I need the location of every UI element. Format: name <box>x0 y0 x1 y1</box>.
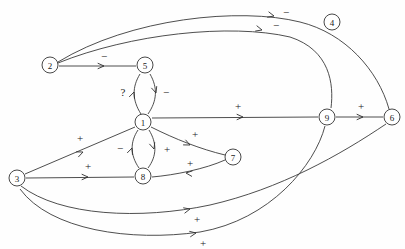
node-1[interactable]: 1 <box>135 114 151 130</box>
edge-1-to-7 <box>151 127 225 155</box>
edge-3-to-8 <box>26 177 134 178</box>
node-2[interactable]: 2 <box>42 57 58 73</box>
edge-sign-label-2-5: − <box>101 50 107 62</box>
arrowhead-1-to-9 <box>237 114 243 119</box>
node-label-7: 7 <box>231 153 236 163</box>
node-label-1: 1 <box>141 118 146 128</box>
edge-1-to-5 <box>134 74 141 114</box>
edge-sign-label-2-9: − <box>273 19 279 31</box>
node-9[interactable]: 9 <box>319 109 335 125</box>
edge-sign-label-3-1: + <box>77 132 83 144</box>
arrowhead-3-to-9 <box>190 231 196 236</box>
edge-5-to-1 <box>148 74 155 114</box>
edge-sign-label-8-1: − <box>117 142 123 154</box>
edge-sign-label-1-9: + <box>235 100 241 112</box>
signed-digraph-svg: −−−?−−+++++++++ 251879634 <box>0 0 405 249</box>
node-label-3: 3 <box>15 174 20 184</box>
arrowhead-5-to-1 <box>152 87 157 93</box>
edge-sign-label-5-1: − <box>163 86 169 98</box>
edge-sign-labels-layer: −−−?−−+++++++++ <box>77 6 364 249</box>
node-5[interactable]: 5 <box>137 57 153 73</box>
node-label-6: 6 <box>390 113 395 123</box>
edge-2-to-6 <box>58 16 389 109</box>
edge-sign-label-1-5: ? <box>121 86 126 98</box>
node-label-4: 4 <box>330 18 335 28</box>
edge-sign-label-3-6: + <box>194 213 200 225</box>
edge-1-to-9 <box>152 117 318 118</box>
edges-layer <box>20 16 389 236</box>
arrowhead-1-to-5 <box>129 92 134 98</box>
arrowhead-3-to-1 <box>77 152 84 157</box>
edge-sign-label-3-8: + <box>85 160 91 172</box>
edge-3-to-6 <box>21 124 386 213</box>
node-6[interactable]: 6 <box>384 109 400 125</box>
arrowhead-3-to-8 <box>82 174 88 179</box>
edge-8-to-1 <box>132 130 139 168</box>
edge-sign-label-9-6: + <box>358 100 364 112</box>
node-label-2: 2 <box>48 61 53 71</box>
graph-diagram-canvas: −−−?−−+++++++++ 251879634 <box>0 0 405 249</box>
arrowhead-8-to-1 <box>127 148 132 154</box>
node-4[interactable]: 4 <box>324 14 340 30</box>
edge-sign-label-2-6: − <box>283 6 289 18</box>
node-label-5: 5 <box>143 61 148 71</box>
arrowhead-2-to-6 <box>268 12 274 17</box>
node-8[interactable]: 8 <box>135 168 151 184</box>
edge-sign-label-1-8: + <box>164 143 170 155</box>
arrowhead-3-to-6 <box>184 208 190 213</box>
nodes-layer: 251879634 <box>9 14 400 186</box>
node-label-9: 9 <box>325 113 330 123</box>
edge-sign-label-1-7: + <box>192 128 198 140</box>
edge-sign-label-7-8: + <box>187 157 193 169</box>
node-3[interactable]: 3 <box>9 170 25 186</box>
node-label-8: 8 <box>141 172 146 182</box>
edge-sign-label-3-9: + <box>200 237 206 249</box>
arrowhead-1-to-8 <box>150 143 155 149</box>
arrowhead-2-to-9 <box>256 26 262 31</box>
edge-3-to-9 <box>20 126 325 235</box>
edge-2-to-9 <box>58 31 332 108</box>
node-7[interactable]: 7 <box>225 149 241 165</box>
